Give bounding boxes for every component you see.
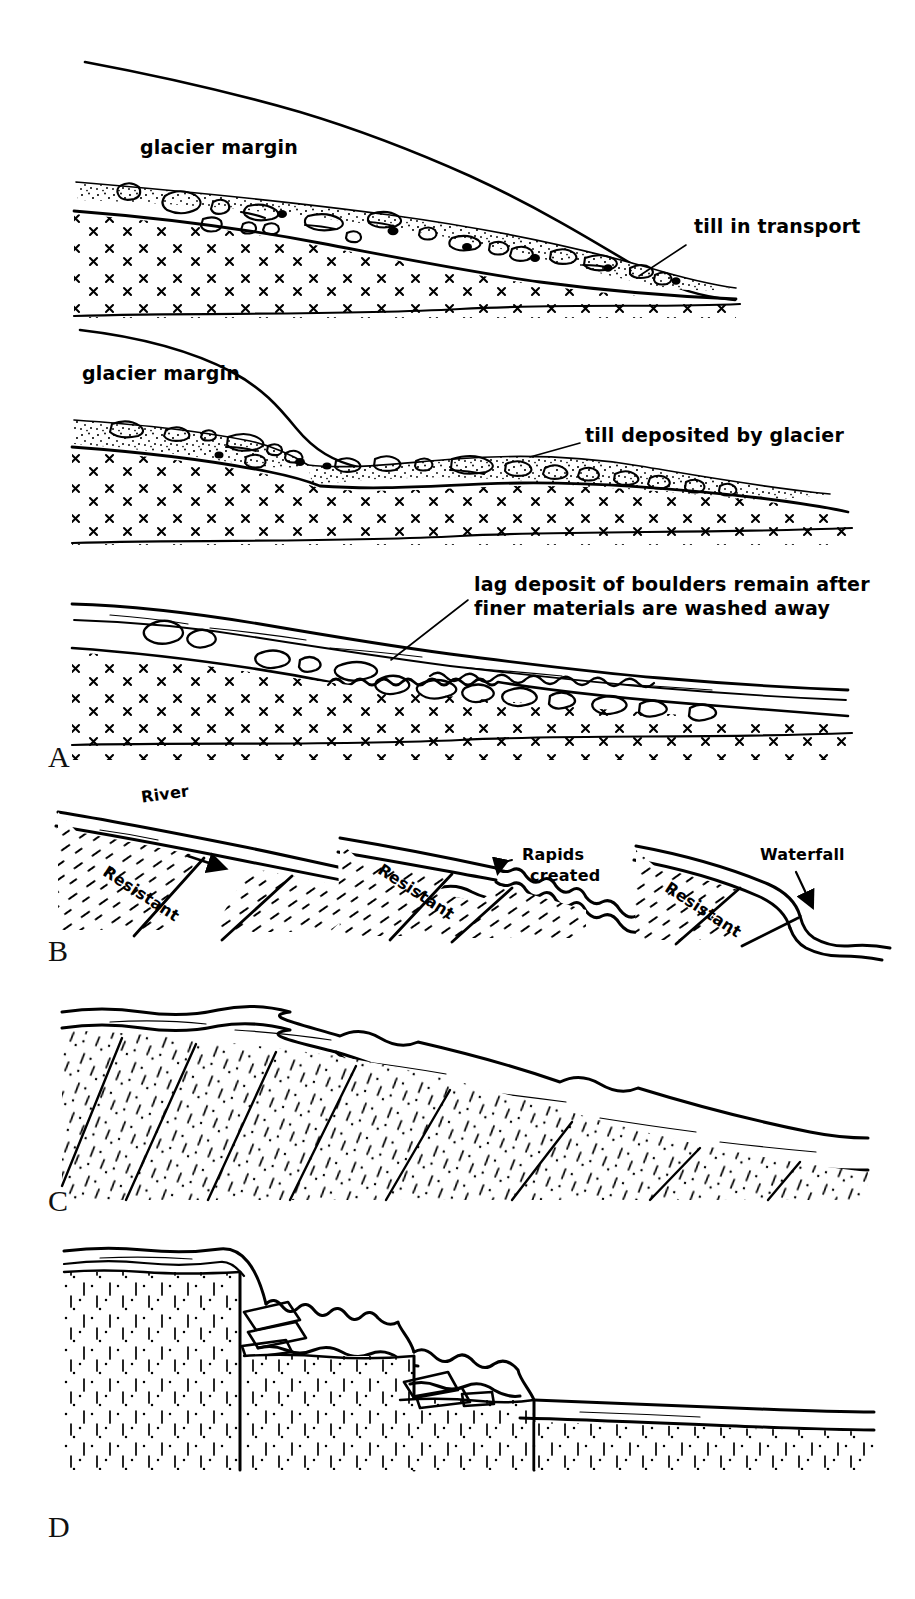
panel-b-scene2 xyxy=(338,838,638,942)
glacier-margin-label-1: glacier margin xyxy=(140,136,298,159)
panel-letter-b: B xyxy=(48,936,69,966)
rapids-label-line2: created xyxy=(530,866,600,886)
lag-deposit-label-line1: lag deposit of boulders remain after xyxy=(474,573,870,596)
glacier-margin-label-2: glacier margin xyxy=(82,362,240,385)
panel-letter-c: C xyxy=(48,1186,69,1216)
panel-d xyxy=(64,1248,874,1470)
waterfall-label: Waterfall xyxy=(760,845,845,865)
till-deposited-label: till deposited by glacier xyxy=(585,424,844,447)
panel-a-sub1 xyxy=(74,62,740,318)
panel-letter-a: A xyxy=(48,742,70,772)
lag-deposit-label-line2: finer materials are washed away xyxy=(474,597,830,620)
figure-page: glacier margin till in transport glacier… xyxy=(0,0,915,1599)
panel-c xyxy=(62,1006,868,1200)
leader-till-deposited xyxy=(530,443,580,457)
rapids-label-line1: Rapids xyxy=(522,845,584,865)
panel-letter-d: D xyxy=(48,1512,70,1542)
panel-a-sub3 xyxy=(72,600,852,760)
till-in-transport-label: till in transport xyxy=(694,215,861,238)
figure-illustration xyxy=(0,0,915,1599)
